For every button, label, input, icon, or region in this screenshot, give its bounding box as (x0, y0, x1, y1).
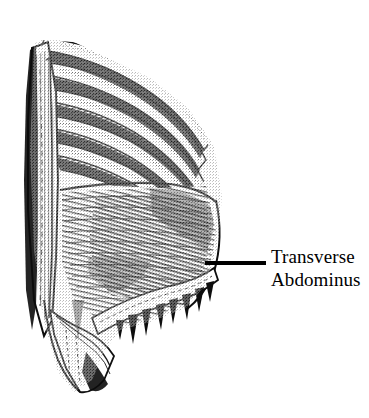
leader-line (205, 261, 266, 265)
structure-label-line-2: Abdominus (271, 268, 361, 291)
structure-label-line-1: Transverse (271, 245, 361, 268)
anatomical-figure: Transverse Abdominus (0, 0, 369, 418)
structure-label: Transverse Abdominus (271, 245, 361, 291)
anatomy-illustration (0, 0, 369, 418)
